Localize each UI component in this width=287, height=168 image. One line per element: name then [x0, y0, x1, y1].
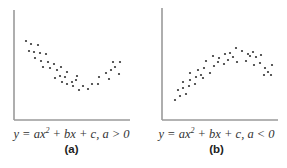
data-point — [236, 61, 238, 63]
data-point — [118, 73, 120, 75]
data-point — [177, 89, 179, 91]
caption-b-rest: + bx + c, a < 0 — [194, 127, 274, 141]
data-point — [108, 78, 110, 80]
data-point — [114, 66, 116, 68]
data-point — [40, 60, 42, 62]
caption-a-base: y = ax — [13, 127, 45, 141]
data-point — [53, 63, 55, 65]
data-point — [189, 79, 191, 81]
data-point — [247, 53, 249, 55]
data-point — [72, 85, 74, 87]
data-point — [259, 62, 261, 64]
data-point — [203, 67, 205, 69]
data-point — [212, 55, 214, 57]
data-point — [267, 71, 269, 73]
data-point — [227, 59, 229, 61]
data-point — [47, 61, 49, 63]
data-point — [59, 75, 61, 77]
data-point — [174, 99, 176, 101]
data-point — [25, 40, 27, 42]
caption-b-base: y = ax — [158, 127, 190, 141]
data-point — [249, 55, 251, 57]
data-point — [264, 67, 266, 69]
caption-a-rest: + bx + c, a > 0 — [49, 127, 129, 141]
data-point — [235, 47, 237, 49]
data-point — [98, 76, 100, 78]
data-point — [110, 69, 112, 71]
chart-panel-b: y = ax2 + bx + c, a < 0 (b) — [145, 0, 287, 168]
data-point — [188, 85, 190, 87]
data-point — [255, 56, 257, 58]
equation-caption-b: y = ax2 + bx + c, a < 0 — [145, 126, 287, 142]
data-point — [232, 56, 234, 58]
data-point — [97, 83, 99, 85]
data-point — [209, 72, 211, 74]
data-point — [218, 57, 220, 59]
scatter-plot-b — [145, 0, 287, 130]
data-point — [64, 76, 66, 78]
data-point — [66, 83, 68, 85]
data-point — [270, 74, 272, 76]
data-point — [66, 71, 68, 73]
data-point — [49, 67, 51, 69]
data-point — [217, 61, 219, 63]
data-point — [54, 77, 56, 79]
data-point — [60, 66, 62, 68]
data-point — [205, 60, 207, 62]
data-point — [185, 93, 187, 95]
data-point — [213, 65, 215, 67]
data-point — [252, 51, 254, 53]
data-point — [263, 74, 265, 76]
data-point — [56, 69, 58, 71]
data-point — [71, 81, 73, 83]
data-point — [182, 87, 184, 89]
data-point — [112, 61, 114, 63]
data-point — [245, 60, 247, 62]
data-point — [105, 72, 107, 74]
data-point — [76, 75, 78, 77]
data-point — [34, 57, 36, 59]
panel-label-b: (b) — [145, 143, 287, 155]
data-point — [87, 88, 89, 90]
panel-label-a: (a) — [0, 143, 143, 155]
data-point — [271, 64, 273, 66]
data-point — [202, 77, 204, 79]
data-point — [224, 53, 226, 55]
data-point — [260, 54, 262, 56]
equation-caption-a: y = ax2 + bx + c, a > 0 — [0, 126, 143, 142]
data-point — [33, 51, 35, 53]
data-point — [119, 61, 121, 63]
data-point — [45, 53, 47, 55]
data-point — [182, 81, 184, 83]
data-point — [78, 89, 80, 91]
data-point — [223, 63, 225, 65]
data-point — [75, 79, 77, 81]
data-point — [229, 52, 231, 54]
data-point — [28, 50, 30, 52]
scatter-plot-a — [0, 0, 143, 130]
data-point — [253, 64, 255, 66]
data-point — [241, 50, 243, 52]
data-point — [200, 74, 202, 76]
data-point — [61, 81, 63, 83]
data-point — [91, 83, 93, 85]
data-point — [30, 43, 32, 45]
data-point — [37, 44, 39, 46]
data-point — [197, 69, 199, 71]
data-point — [179, 95, 181, 97]
data-point — [42, 66, 44, 68]
data-point — [194, 83, 196, 85]
data-point — [39, 52, 41, 54]
data-point — [82, 85, 84, 87]
data-point — [195, 76, 197, 78]
data-point — [189, 72, 191, 74]
chart-panel-a: y = ax2 + bx + c, a > 0 (a) — [0, 0, 143, 168]
